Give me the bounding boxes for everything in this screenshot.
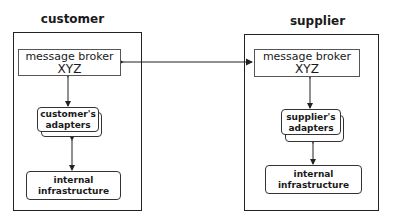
supplier-title: supplier <box>280 14 355 28</box>
supplier-internal-line2: infrastructure <box>266 180 361 191</box>
supplier-adapters-line2: adapters <box>282 123 340 134</box>
supplier-message-broker: message broker XYZ <box>254 49 360 77</box>
customer-title: customer <box>35 12 110 26</box>
supplier-broker-id: XYZ <box>255 63 359 75</box>
customer-internal-infrastructure: internal infrastructure <box>26 171 121 200</box>
customer-internal-line2: infrastructure <box>27 186 120 197</box>
customer-internal-line1: internal <box>27 175 120 186</box>
supplier-internal-line1: internal <box>266 169 361 180</box>
supplier-adapters-line1: supplier's <box>282 112 340 123</box>
customer-adapters-line1: customer's <box>38 109 98 120</box>
customer-adapters-line2: adapters <box>38 120 98 131</box>
customer-adapters: customer's adapters <box>37 107 99 132</box>
supplier-adapters: supplier's adapters <box>281 109 341 135</box>
supplier-internal-infrastructure: internal infrastructure <box>265 165 362 194</box>
customer-broker-id: XYZ <box>19 63 120 75</box>
customer-message-broker: message broker XYZ <box>18 49 121 76</box>
